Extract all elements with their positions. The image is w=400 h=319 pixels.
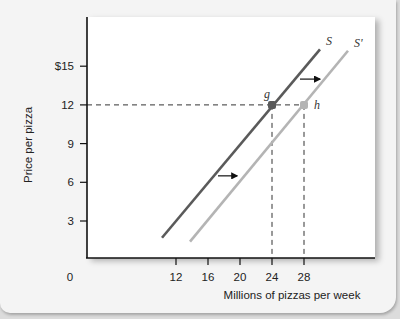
origin-label: 0 [67, 271, 73, 283]
x-ticks: 1216202428 [170, 258, 311, 283]
y-ticks: 36912$15 [55, 60, 87, 227]
y-tick-label: 6 [68, 176, 74, 188]
y-tick-label: 9 [68, 138, 74, 150]
point-label-g: g [264, 87, 270, 101]
supply-curve-s [162, 49, 320, 237]
points: gh [264, 87, 320, 112]
supply-curve-s-prime [190, 51, 348, 242]
y-axis-title: Price per pizza [22, 106, 34, 183]
supply-curves: SS' [162, 34, 363, 241]
x-tick-label: 20 [234, 271, 247, 283]
y-tick-label: 12 [61, 99, 74, 111]
x-axis-title: Millions of pizzas per week [224, 289, 361, 301]
supply-shift-chart: SS' gh 36912$15 1216202428 0 Millions of… [0, 0, 400, 319]
x-tick-label: 28 [298, 271, 311, 283]
y-tick-label: 3 [68, 215, 74, 227]
x-tick-label: 16 [202, 271, 215, 283]
curve-label-s-prime: S' [354, 36, 363, 50]
y-tick-label: $15 [55, 60, 74, 72]
equilibrium-point-g [268, 101, 276, 109]
x-tick-label: 24 [266, 271, 279, 283]
x-tick-label: 12 [170, 271, 183, 283]
curve-label-s: S [326, 34, 332, 48]
point-label-h: h [314, 98, 320, 112]
equilibrium-point-h [300, 101, 308, 109]
